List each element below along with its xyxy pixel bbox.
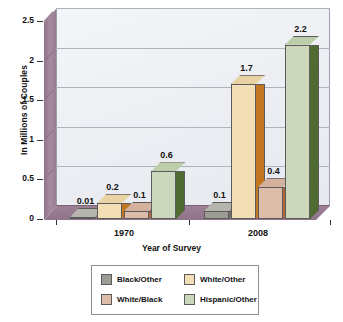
y-tick-mark <box>37 100 43 101</box>
bar <box>151 171 176 219</box>
y-tick-label: 1 <box>8 135 34 144</box>
bar <box>285 45 310 219</box>
bar <box>231 84 256 219</box>
legend-label: White/Black <box>117 295 162 304</box>
legend-item[interactable]: White/Black <box>101 294 162 305</box>
y-tick-mark <box>37 179 43 180</box>
bar-front-face <box>97 203 122 219</box>
legend-swatch <box>184 274 195 285</box>
legend-label: Hispanic/Other <box>200 295 257 304</box>
bar-front-face <box>70 217 95 219</box>
bar-value-label: 2.2 <box>279 24 322 34</box>
bar <box>124 211 149 219</box>
bar-front-face <box>231 84 256 219</box>
plot-area: 0.010.20.10.60.11.70.42.2 <box>44 8 330 220</box>
bar-front-face <box>258 187 283 219</box>
bar <box>97 203 122 219</box>
legend-label: Black/Other <box>117 275 162 284</box>
y-tick-label: 0.5 <box>8 174 34 183</box>
bar-chart: In Millions of Couples 00.511.522.5 0.01… <box>0 0 343 322</box>
bar <box>258 187 283 219</box>
y-tick-mark <box>37 219 43 220</box>
y-tick-label: 1.5 <box>8 95 34 104</box>
bar <box>204 211 229 219</box>
bar-front-face <box>151 171 176 219</box>
bar-value-label: 0.6 <box>145 150 188 160</box>
gridline <box>56 8 330 9</box>
legend-item[interactable]: White/Other <box>184 274 245 285</box>
legend: Black/OtherWhite/OtherWhite/BlackHispani… <box>91 265 259 315</box>
y-tick-label: 0 <box>8 214 34 223</box>
bar-front-face <box>204 211 229 219</box>
bar-front-face <box>124 211 149 219</box>
bar-side-face <box>310 45 319 219</box>
y-tick-label: 2 <box>8 56 34 65</box>
x-category-label: 2008 <box>228 228 288 238</box>
legend-item[interactable]: Hispanic/Other <box>184 294 257 305</box>
legend-swatch <box>101 274 112 285</box>
y-tick-label: 2.5 <box>8 16 34 25</box>
y-tick-mark <box>37 140 43 141</box>
x-tick-mark <box>189 220 190 225</box>
legend-item[interactable]: Black/Other <box>101 274 162 285</box>
legend-swatch <box>184 294 195 305</box>
y-tick-mark <box>37 21 43 22</box>
x-tick-mark <box>330 220 331 225</box>
legend-label: White/Other <box>200 275 245 284</box>
y-tick-mark <box>37 61 43 62</box>
x-category-label: 1970 <box>94 228 154 238</box>
legend-swatch <box>101 294 112 305</box>
x-tick-mark <box>56 220 57 225</box>
x-axis-title: Year of Survey <box>0 243 343 253</box>
bar-front-face <box>285 45 310 219</box>
bar <box>70 217 95 219</box>
bar-value-label: 1.7 <box>225 63 268 73</box>
